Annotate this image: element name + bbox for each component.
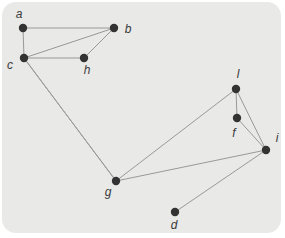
vertex-l [232,85,240,93]
vertex-label-i: i [276,131,279,145]
vertex-label-h: h [84,63,91,77]
vertex-a [19,24,27,32]
edge-c-g [24,58,116,181]
vertex-label-d: d [171,218,178,232]
graph-canvas: abchlfigd [0,0,285,238]
vertex-label-a: a [16,7,23,21]
vertex-c [20,54,28,62]
vertex-i [262,146,270,154]
vertex-label-c: c [7,58,13,72]
edge-f-i [237,118,266,150]
vertex-f [233,114,241,122]
edge-a-c [23,28,24,58]
vertex-g [112,177,120,185]
vertex-b [110,24,118,32]
vertex-label-g: g [105,185,112,199]
vertex-label-l: l [237,67,240,81]
vertex-label-b: b [125,22,132,36]
vertex-h [80,54,88,62]
edge-b-c [24,28,114,58]
edge-l-f [236,89,237,118]
edge-g-l [116,89,236,181]
vertex-d [171,208,179,216]
vertex-label-f: f [232,126,237,140]
